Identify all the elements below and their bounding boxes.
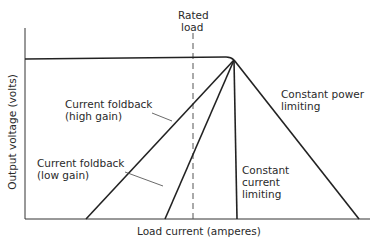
label-constant-current: Constant current limiting [242, 164, 289, 200]
regulated-voltage-line [25, 57, 234, 60]
label-constant-power: Constant power limiting [281, 88, 364, 112]
label-line: current [242, 176, 289, 188]
label-line: (high gain) [65, 110, 152, 122]
curve-foldback-low-gain [165, 60, 234, 219]
label-line: Constant [242, 164, 289, 176]
curve-foldback-high-gain [86, 60, 234, 219]
y-axis-label: Output voltage (volts) [6, 72, 18, 192]
x-axis-label: Load current (amperes) [137, 225, 261, 237]
label-line: Constant power [281, 88, 364, 100]
rated-load-label: Rated load [178, 9, 209, 33]
diagram-canvas [0, 0, 376, 242]
label-foldback-low-gain: Current foldback (low gain) [37, 157, 124, 181]
label-line: (low gain) [37, 169, 124, 181]
rated-load-label-line1: Rated [178, 9, 209, 21]
rated-load-label-line2: load [178, 21, 209, 33]
label-line: Current foldback [37, 157, 124, 169]
pointer-high-gain [152, 113, 172, 121]
label-line: Current foldback [65, 98, 152, 110]
pointer-low-gain [125, 172, 163, 186]
label-line: limiting [281, 100, 364, 112]
curve-constant-current [234, 60, 237, 219]
label-foldback-high-gain: Current foldback (high gain) [65, 98, 152, 122]
label-line: limiting [242, 188, 289, 200]
